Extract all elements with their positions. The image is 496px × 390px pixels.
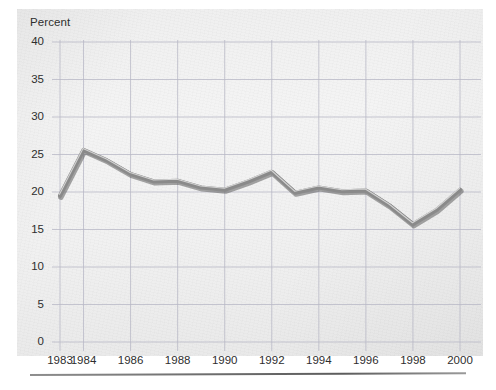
y-axis-tick-label: 40	[18, 35, 44, 47]
x-axis-tick-label: 1994	[306, 354, 332, 366]
y-axis-tick-label: 5	[18, 298, 44, 310]
x-axis-tick-label: 1986	[118, 354, 144, 366]
grid-lines	[52, 40, 481, 351]
y-axis-tick-label: 30	[18, 110, 44, 122]
x-axis-tick-label: 1992	[259, 354, 285, 366]
y-axis-tick-label: 20	[18, 185, 44, 197]
x-axis-tick-label: 1988	[165, 354, 191, 366]
y-axis-tick-label: 0	[18, 335, 44, 347]
y-axis-tick-label: 10	[18, 260, 44, 272]
y-axis-tick-label: 15	[18, 223, 44, 235]
x-axis-tick-label: 2000	[447, 354, 473, 366]
x-axis-tick-label: 1983	[47, 354, 73, 366]
y-axis-tick-label: 35	[18, 73, 44, 85]
chart-figure: Percent 0510152025303540 198319841986198…	[0, 0, 496, 390]
x-axis-tick-label: 1996	[353, 354, 379, 366]
data-series-percent	[60, 149, 461, 226]
x-axis-tick-label: 1998	[400, 354, 426, 366]
chart-canvas	[0, 0, 496, 390]
x-axis-tick-label: 1984	[71, 354, 97, 366]
x-axis-tick-label: 1990	[212, 354, 238, 366]
y-axis-tick-label: 25	[18, 148, 44, 160]
